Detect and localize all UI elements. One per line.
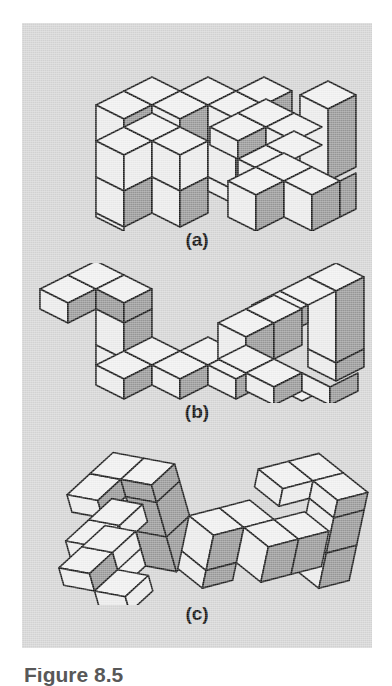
stimulus-row-a (22, 71, 372, 231)
stimulus-row-c (22, 435, 372, 605)
stimulus-row-b (22, 263, 372, 403)
cube-structure-a-pair (22, 71, 372, 231)
cube-structure-c-right (175, 435, 372, 605)
panel-label-b: (b) (22, 401, 372, 423)
panel-label-a: (a) (22, 229, 372, 251)
figure-image-panel: (a) (22, 23, 372, 648)
cube-structure-c-pair (22, 435, 372, 605)
cube-structure-b-pair (22, 263, 372, 403)
figure-caption-text: Figure 8.5 (24, 668, 224, 685)
panel-label-c: (c) (22, 603, 372, 625)
figure-caption: Figure 8.5 (24, 668, 224, 686)
cube-structure-c-left (32, 437, 210, 605)
